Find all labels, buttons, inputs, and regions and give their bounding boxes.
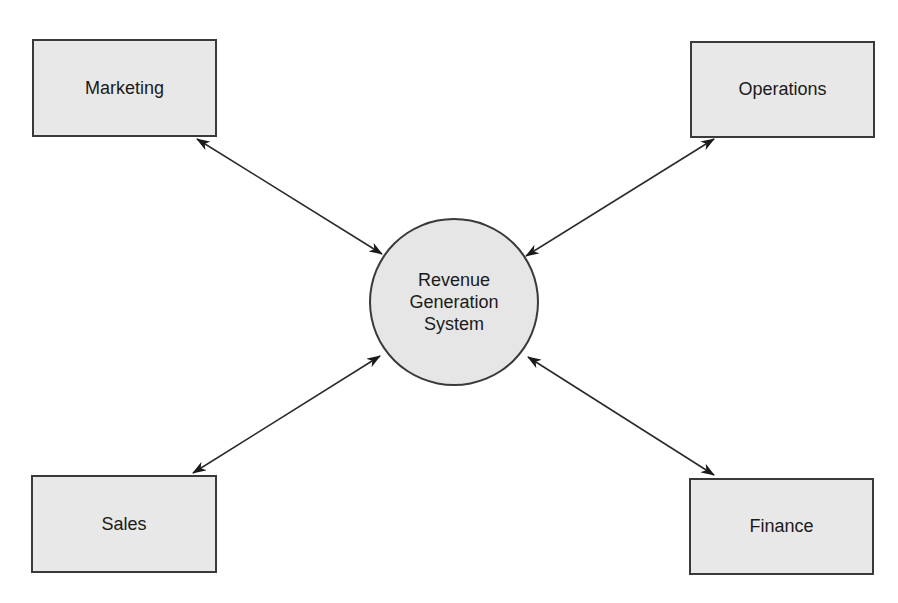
marketing-label: Marketing	[85, 78, 164, 99]
center-label-line-3: System	[424, 313, 484, 335]
operations-label: Operations	[738, 79, 826, 100]
marketing-node: Marketing	[32, 39, 217, 137]
sales-label: Sales	[101, 514, 146, 535]
operations-node: Operations	[690, 41, 875, 138]
edge-operations-center	[526, 139, 714, 256]
sales-node: Sales	[31, 475, 217, 573]
edge-sales-center	[193, 356, 380, 473]
revenue-system-diagram: Marketing Operations Sales Finance Reven…	[0, 0, 898, 603]
revenue-generation-system-node: Revenue Generation System	[369, 218, 539, 386]
center-label-line-2: Generation	[409, 291, 498, 313]
edge-finance-center	[528, 357, 714, 475]
center-label-line-1: Revenue	[418, 269, 490, 291]
edge-marketing-center	[197, 139, 382, 254]
finance-node: Finance	[689, 478, 874, 575]
finance-label: Finance	[749, 516, 813, 537]
